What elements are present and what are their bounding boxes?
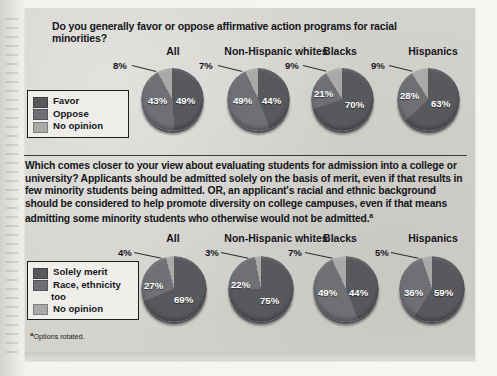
legend-item-race-ethnicity-too: Race, ethnicity bbox=[33, 279, 131, 292]
chart2-hispanics-no-opinion-label: 5% bbox=[375, 247, 389, 258]
legend-swatch-solely-merit bbox=[33, 268, 48, 279]
chart1-group-label-hispanics: Hispanics bbox=[385, 45, 481, 57]
legend-swatch-race-ethnicity-too bbox=[33, 280, 48, 291]
chart2-pie-hispanics: 59% 36% bbox=[399, 256, 465, 322]
legend-swatch-oppose bbox=[33, 109, 48, 120]
chart2-blacks-no-opinion-label: 7% bbox=[288, 247, 302, 258]
legend-label-no-opinion: No opinion bbox=[53, 303, 103, 315]
pie-label-favor: 70% bbox=[345, 99, 364, 110]
book-gutter-texture bbox=[6, 18, 18, 358]
legend-item-favor: Favor bbox=[33, 95, 121, 108]
pie-label-favor: 44% bbox=[262, 95, 281, 106]
legend-item-no-opinion: No opinion bbox=[33, 303, 131, 316]
chart1-pie-blacks: 70% 21% bbox=[311, 68, 374, 131]
legend-label-race-ethnicity: Race, ethnicity bbox=[53, 279, 121, 291]
chart2-pie-blacks: 44% 49% bbox=[313, 256, 379, 322]
chart2-all-no-opinion-label: 4% bbox=[118, 247, 132, 258]
chart1-hispanics-no-opinion-label: 9% bbox=[371, 60, 385, 71]
pie-slices bbox=[311, 68, 374, 131]
panel-bottom-edge bbox=[25, 352, 475, 360]
legend-item-no-opinion: No opinion bbox=[33, 120, 121, 133]
legend-swatch-favor bbox=[33, 97, 48, 108]
legend-item-solely-merit: Solely merit bbox=[33, 266, 131, 279]
chart2-question-text: Which comes closer to your view about ev… bbox=[25, 160, 462, 225]
pie-label-favor: 63% bbox=[431, 98, 450, 109]
chart1-group-label-blacks: Blacks bbox=[300, 45, 380, 57]
pie-label-race: 36% bbox=[404, 287, 423, 298]
chart2-question-body: Which comes closer to your view about ev… bbox=[25, 160, 467, 226]
pie-label-merit: 44% bbox=[349, 287, 368, 298]
chart1-pie-hispanics: 63% 28% bbox=[397, 68, 460, 131]
legend-item-race-ethnicity-too-line2: too bbox=[33, 291, 131, 303]
chart2-legend: Solely merit Race, ethnicity too No opin… bbox=[27, 261, 139, 320]
legend-label-solely-merit: Solely merit bbox=[53, 266, 107, 278]
pie-label-oppose: 49% bbox=[233, 95, 252, 106]
pie-label-oppose: 21% bbox=[314, 88, 333, 99]
pie-label-favor: 49% bbox=[176, 95, 195, 106]
pie-label-oppose: 28% bbox=[400, 90, 419, 101]
legend-label-race-ethnicity-too: too bbox=[51, 291, 66, 303]
chart1-pie-non-hispanic-whites: 44% 49% bbox=[227, 68, 290, 131]
pie-label-merit: 69% bbox=[174, 294, 193, 305]
legend-label-oppose: Oppose bbox=[53, 108, 89, 120]
legend-label-no-opinion: No opinion bbox=[53, 120, 103, 132]
legend-label-favor: Favor bbox=[53, 95, 79, 107]
chart1-legend: Favor Oppose No opinion bbox=[27, 90, 129, 138]
chart2-pie-all: 69% 27% bbox=[141, 256, 207, 322]
chart2-pie-non-hispanic-whites: 75% 22% bbox=[228, 256, 294, 322]
pie-label-merit: 59% bbox=[434, 287, 453, 298]
chart1-all-no-opinion-label: 8% bbox=[113, 60, 127, 71]
chart2-group-label-blacks: Blacks bbox=[300, 232, 380, 244]
pie-label-race: 22% bbox=[231, 279, 250, 290]
pie-label-oppose: 43% bbox=[148, 95, 167, 106]
pie-label-race: 49% bbox=[318, 287, 337, 298]
legend-item-oppose: Oppose bbox=[33, 108, 121, 121]
chart2-nhw-no-opinion-label: 3% bbox=[205, 247, 219, 258]
chart2-footnote: aOptions rotated. bbox=[30, 330, 85, 341]
section-divider bbox=[24, 155, 467, 156]
chart2-group-label-hispanics: Hispanics bbox=[385, 232, 481, 244]
chart2-group-label-all: All bbox=[148, 232, 198, 244]
scanned-page: Do you generally favor or oppose affirma… bbox=[0, 0, 497, 376]
chart1-blacks-no-opinion-label: 9% bbox=[285, 60, 299, 71]
legend-swatch-no-opinion bbox=[33, 304, 48, 315]
chart2-question-superscript: a bbox=[369, 212, 373, 219]
chart1-pie-all: 49% 43% bbox=[141, 68, 204, 131]
chart1-group-label-all: All bbox=[148, 45, 198, 57]
pie-label-merit: 75% bbox=[260, 295, 279, 306]
footnote-text: Options rotated. bbox=[33, 332, 84, 341]
chart1-nhw-no-opinion-label: 7% bbox=[199, 60, 213, 71]
chart1-question-title: Do you generally favor or oppose affirma… bbox=[52, 20, 452, 44]
legend-swatch-no-opinion bbox=[33, 122, 48, 133]
pie-label-race: 27% bbox=[144, 280, 163, 291]
